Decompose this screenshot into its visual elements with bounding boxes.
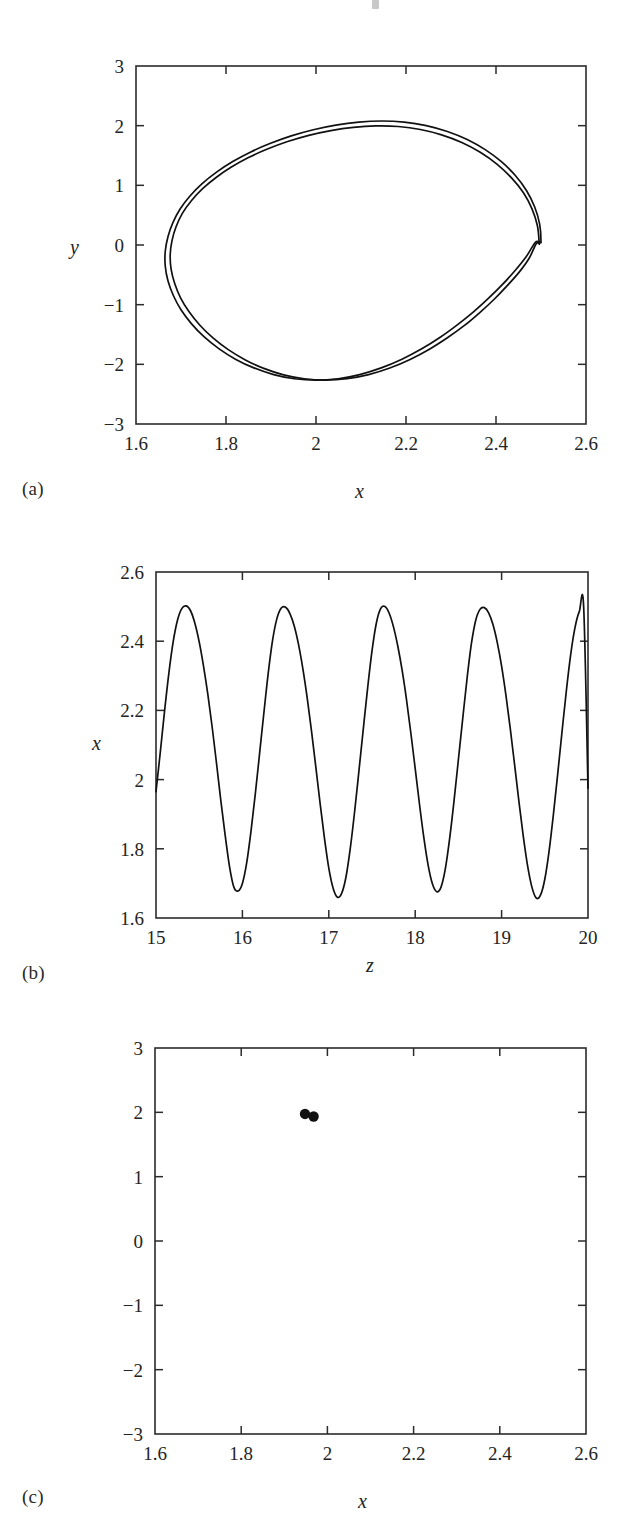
panel-c-label: (c) xyxy=(22,1486,44,1508)
svg-text:2.4: 2.4 xyxy=(488,1443,512,1464)
panel-a-plot: 1.61.822.22.42.6 −3−2−10123 xyxy=(0,0,630,520)
svg-text:1.8: 1.8 xyxy=(229,1443,253,1464)
svg-text:2: 2 xyxy=(115,116,125,137)
svg-text:1.6: 1.6 xyxy=(143,1443,167,1464)
panel-b-tick-marks xyxy=(156,572,588,918)
svg-text:3: 3 xyxy=(134,1038,144,1059)
svg-text:1: 1 xyxy=(115,175,125,196)
svg-text:18: 18 xyxy=(406,927,425,948)
phase-trajectory-outer-loop xyxy=(165,121,541,380)
svg-text:2: 2 xyxy=(323,1443,333,1464)
panel-b-y-tick-labels: 1.61.822.22.42.6 xyxy=(120,562,144,929)
phase-trajectory-inner-loop xyxy=(170,126,539,380)
panel-b-plot: 151617181920 1.61.822.22.42.6 xyxy=(0,520,630,990)
svg-text:−2: −2 xyxy=(104,354,124,375)
panel-c-plot: 1.61.822.22.42.6 −3−2−10123 xyxy=(0,990,630,1528)
panel-a-phase-portrait: 1.61.822.22.42.6 −3−2−10123 y x (a) xyxy=(0,0,630,520)
panel-b-signal-curve xyxy=(156,595,588,899)
svg-text:1.8: 1.8 xyxy=(120,839,144,860)
panel-c-x-axis-label: x xyxy=(358,1490,367,1513)
svg-text:1: 1 xyxy=(134,1167,144,1188)
svg-text:−3: −3 xyxy=(123,1424,143,1445)
svg-text:1.8: 1.8 xyxy=(214,433,238,454)
panel-a-trajectory-curves xyxy=(165,121,541,380)
figure-root: 1.61.822.22.42.6 −3−2−10123 y x (a) 1516… xyxy=(0,0,630,1528)
panel-c-y-tick-labels: −3−2−10123 xyxy=(123,1038,143,1445)
svg-text:2.2: 2.2 xyxy=(402,1443,426,1464)
svg-text:2: 2 xyxy=(135,770,145,791)
panel-a-label: (a) xyxy=(22,478,44,500)
panel-b-axes-frame xyxy=(156,572,588,918)
svg-text:2.6: 2.6 xyxy=(120,562,144,583)
svg-text:1.6: 1.6 xyxy=(120,908,144,929)
svg-text:2.4: 2.4 xyxy=(120,631,144,652)
svg-text:−1: −1 xyxy=(123,1295,143,1316)
panel-c-tick-marks xyxy=(155,1048,586,1434)
panel-a-x-tick-labels: 1.61.822.22.42.6 xyxy=(124,433,598,454)
panel-c-axes-frame xyxy=(155,1048,586,1434)
panel-a-y-tick-labels: −3−2−10123 xyxy=(104,56,124,435)
svg-text:19: 19 xyxy=(492,927,511,948)
panel-a-y-axis-label: y xyxy=(70,236,79,259)
panel-a-x-axis-label: x xyxy=(355,480,364,503)
svg-text:17: 17 xyxy=(319,927,338,948)
panel-b-x-tick-labels: 151617181920 xyxy=(147,927,598,948)
svg-text:2.6: 2.6 xyxy=(574,433,598,454)
panel-c-x-tick-labels: 1.61.822.22.42.6 xyxy=(143,1443,598,1464)
panel-b-y-axis-label: x xyxy=(92,732,101,755)
panel-a-tick-marks xyxy=(136,66,586,424)
poincare-point-2 xyxy=(308,1111,318,1121)
svg-text:2: 2 xyxy=(134,1102,144,1123)
svg-text:−3: −3 xyxy=(104,414,124,435)
svg-text:2.2: 2.2 xyxy=(394,433,418,454)
svg-text:2.6: 2.6 xyxy=(574,1443,598,1464)
panel-b-label: (b) xyxy=(22,962,45,984)
svg-text:2.4: 2.4 xyxy=(484,433,508,454)
panel-c-poincare-points xyxy=(300,1109,319,1122)
panel-c-poincare-section: 1.61.822.22.42.6 −3−2−10123 y x (c) xyxy=(0,990,630,1528)
svg-text:−1: −1 xyxy=(104,295,124,316)
panel-a-axes-frame xyxy=(136,66,586,424)
svg-text:0: 0 xyxy=(115,235,125,256)
svg-text:2: 2 xyxy=(311,433,321,454)
panel-b-time-series: 151617181920 1.61.822.22.42.6 x z (b) xyxy=(0,520,630,990)
svg-text:−2: −2 xyxy=(123,1360,143,1381)
svg-text:15: 15 xyxy=(147,927,166,948)
svg-text:16: 16 xyxy=(233,927,252,948)
panel-b-x-axis-label: z xyxy=(366,954,374,977)
svg-text:3: 3 xyxy=(115,56,125,77)
svg-text:20: 20 xyxy=(579,927,598,948)
svg-text:2.2: 2.2 xyxy=(120,700,144,721)
time-series-curve xyxy=(156,595,588,899)
svg-text:0: 0 xyxy=(134,1231,144,1252)
svg-text:1.6: 1.6 xyxy=(124,433,148,454)
